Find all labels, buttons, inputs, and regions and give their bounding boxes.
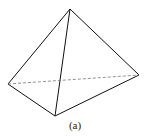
edge-front-right (55, 75, 139, 116)
visible-edges (8, 9, 139, 116)
hidden-edge-left-right (8, 75, 139, 84)
figure-caption: (a) (0, 119, 150, 131)
edge-left-front (8, 84, 55, 116)
hidden-edge (8, 75, 139, 84)
edge-apex-right (70, 9, 139, 75)
